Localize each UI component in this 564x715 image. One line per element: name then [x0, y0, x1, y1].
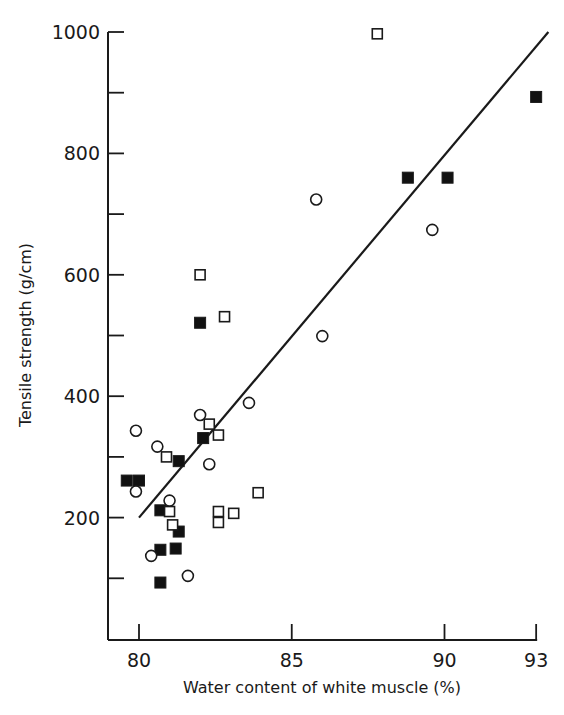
open-square-point [213, 430, 223, 440]
filled-square-point [134, 475, 145, 486]
filled-square-point [402, 172, 413, 183]
data-points [121, 29, 541, 588]
y-tick-label: 1000 [52, 21, 100, 43]
open-circle-point [182, 570, 193, 581]
open-square-point [204, 419, 214, 429]
x-tick-label: 85 [280, 649, 304, 671]
y-tick-label: 400 [64, 385, 100, 407]
open-circle-point [195, 410, 206, 421]
open-square-point [253, 488, 263, 498]
open-square-point [195, 270, 205, 280]
x-tick-label: 90 [432, 649, 456, 671]
open-circle-point [243, 397, 254, 408]
y-tick-label: 600 [64, 264, 100, 286]
open-circle-point [130, 486, 141, 497]
filled-square-point [531, 91, 542, 102]
open-circle-point [152, 441, 163, 452]
filled-square-point [121, 475, 132, 486]
scatter-chart: 200400600800100080859093 Water content o… [0, 0, 564, 715]
y-tick-label: 800 [64, 142, 100, 164]
x-tick-label: 93 [524, 649, 548, 671]
x-axis-title: Water content of white muscle (%) [183, 678, 461, 697]
filled-square-point [170, 543, 181, 554]
open-square-point [165, 507, 175, 517]
open-square-point [161, 452, 171, 462]
open-circle-point [204, 459, 215, 470]
y-axis-title: Tensile strength (g/cm) [16, 243, 35, 428]
x-tick-label: 80 [127, 649, 151, 671]
open-square-point [213, 517, 223, 527]
y-tick-label: 200 [64, 507, 100, 529]
open-circle-point [164, 495, 175, 506]
open-circle-point [427, 224, 438, 235]
open-circle-point [317, 331, 328, 342]
filled-square-point [173, 456, 184, 467]
open-square-point [229, 508, 239, 518]
open-square-point [372, 29, 382, 39]
open-circle-point [130, 425, 141, 436]
open-square-point [168, 520, 178, 530]
open-square-point [220, 312, 230, 322]
axis-ticks: 200400600800100080859093 [52, 21, 549, 671]
filled-square-point [195, 317, 206, 328]
open-circle-point [146, 550, 157, 561]
filled-square-point [155, 577, 166, 588]
open-square-point [213, 507, 223, 517]
filled-square-point [442, 172, 453, 183]
open-circle-point [311, 194, 322, 205]
filled-square-point [198, 433, 209, 444]
